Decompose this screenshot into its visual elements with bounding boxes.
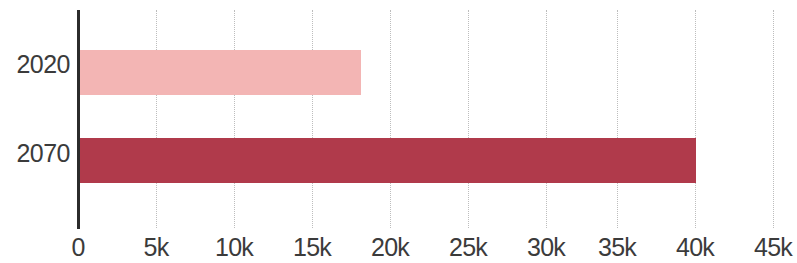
bar-2070	[78, 138, 696, 183]
gridline-45k	[773, 10, 774, 228]
gridline-20k	[390, 10, 391, 228]
gridline-35k	[617, 10, 618, 228]
value-axis-line	[77, 10, 80, 229]
category-label-2070: 2070	[0, 139, 70, 168]
category-label-2020: 2020	[0, 50, 70, 79]
tick-label-10k: 10k	[215, 233, 253, 262]
gridline-10k	[234, 10, 235, 228]
tick-label-5k: 5k	[144, 233, 169, 262]
bar-chart: 2020 2070 0 5k 10k 15k 20k 25k 30k 35k 4…	[0, 0, 797, 263]
gridline-15k	[312, 10, 313, 228]
tick-label-45k: 45k	[754, 233, 792, 262]
tick-label-35k: 35k	[598, 233, 636, 262]
tick-label-30k: 30k	[527, 233, 565, 262]
tick-label-40k: 40k	[676, 233, 714, 262]
tick-label-0: 0	[71, 233, 84, 262]
bar-2020	[78, 50, 361, 95]
gridline-25k	[468, 10, 469, 228]
gridline-5k	[156, 10, 157, 228]
tick-label-20k: 20k	[371, 233, 409, 262]
tick-label-25k: 25k	[449, 233, 487, 262]
plot-area	[78, 10, 773, 228]
gridline-30k	[546, 10, 547, 228]
tick-label-15k: 15k	[293, 233, 331, 262]
gridline-40k	[695, 10, 696, 228]
